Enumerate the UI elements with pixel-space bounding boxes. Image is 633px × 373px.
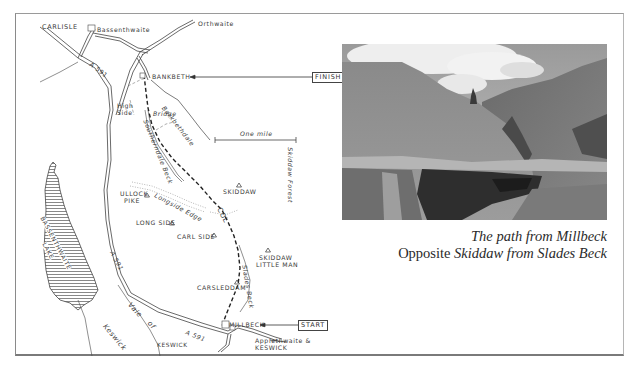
landscape-photo xyxy=(342,44,607,220)
caption-line-1: The path from Millbeck xyxy=(471,229,607,244)
label-applethwaite-2: KESWICK xyxy=(255,345,287,351)
label-skiddaw-forest: Skiddaw Forest xyxy=(287,147,293,203)
label-carlisle: CARLISLE xyxy=(42,24,78,31)
label-orthwaite: Orthwaite xyxy=(198,21,234,27)
label-keswick: KESWICK xyxy=(157,343,188,349)
label-skiddaw-little-man-2: LITTLE MAN xyxy=(256,262,298,268)
label-skiddaw: SKIDDAW xyxy=(223,189,256,195)
label-bassenthwaite: Bassenthwaite xyxy=(97,27,150,33)
label-scale: One mile xyxy=(240,131,273,137)
label-carl-side: CARL SIDE xyxy=(177,234,215,240)
label-carsleddam: CARSLEDDAM xyxy=(197,285,246,291)
caption-prefix: Opposite xyxy=(398,245,454,261)
finish-marker: FINISH xyxy=(312,72,344,83)
label-bankbeth: BANKBETH xyxy=(152,74,191,80)
label-millbeck: MILLBECK xyxy=(229,322,264,328)
label-ullock-pike-2: PIKE xyxy=(124,198,140,204)
label-long-side: LONG SIDE xyxy=(136,220,175,226)
start-marker: START xyxy=(298,320,328,331)
label-high-side-2: Side xyxy=(117,110,133,116)
caption-photo-title: Skiddaw from Slades Beck xyxy=(454,245,607,261)
caption-title: The path from Millbeck xyxy=(471,228,607,244)
caption-line-2: Opposite Skiddaw from Slades Beck xyxy=(398,246,607,261)
